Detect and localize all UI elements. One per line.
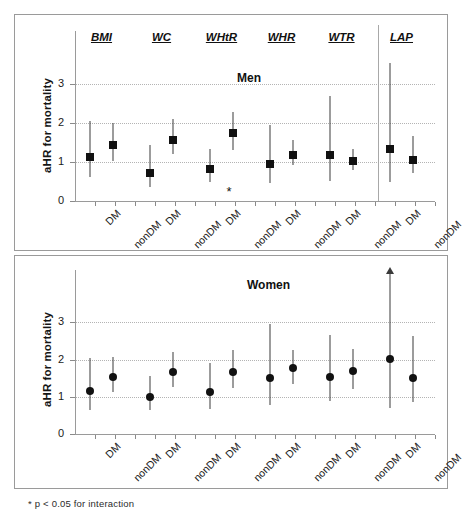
confidence-interval-whisker [90,358,91,410]
x-category-label: DM [103,207,123,227]
x-category-label: DM [343,207,363,227]
x-tick-mark [315,435,316,439]
significance-asterisk: * [226,185,231,198]
x-category-label: DM [163,207,183,227]
data-point-marker [386,355,394,363]
y-axis-line [75,270,76,434]
x-tick-mark [255,435,256,439]
group-header-whtr: WHtR [206,31,237,43]
x-tick-mark [295,435,296,439]
x-category-label: DM [103,440,123,460]
x-category-label: nonDM [131,451,163,483]
group-header-whr: WHR [268,31,295,43]
y-tick-label: 0 [42,195,64,206]
data-point-marker [266,374,274,382]
y-tick-label: 1 [42,156,64,167]
x-tick-mark [355,435,356,439]
data-point-marker [409,156,417,164]
panel-women: aHR for mortality0123WomenDMnonDMDMnonDM… [14,255,448,489]
x-tick-mark [175,435,176,439]
x-category-label: DM [403,440,423,460]
y-tick-label: 1 [42,391,64,402]
data-point-marker [169,368,177,376]
x-tick-mark [135,435,136,439]
data-point-marker [229,129,237,137]
y-tick-label: 2 [42,354,64,365]
gridline [75,322,435,323]
confidence-interval-whisker [270,324,271,404]
x-tick-mark [295,202,296,206]
x-category-label: DM [223,440,243,460]
gridline [75,360,435,361]
x-category-label: nonDM [431,218,462,250]
confidence-interval-whisker [150,145,151,188]
group-header-bmi: BMI [91,31,112,43]
x-tick-mark [435,435,436,439]
x-category-label: nonDM [311,218,343,250]
gridline [75,123,435,124]
x-category-label: DM [163,440,183,460]
x-category-label: nonDM [431,451,462,483]
data-point-marker [386,145,394,153]
y-tick-label: 3 [42,316,64,327]
forest-plot-figure: aHR for mortality0123MenBMIWCWHtRWHRWTRL… [0,0,462,510]
x-category-label: nonDM [191,218,223,250]
confidence-interval-whisker [390,63,391,182]
x-tick-mark [195,202,196,206]
x-category-label: nonDM [371,218,403,250]
confidence-interval-whisker [413,336,414,402]
x-tick-mark [395,435,396,439]
data-point-marker [109,373,117,381]
x-tick-mark [275,435,276,439]
confidence-interval-whisker [270,125,271,183]
x-category-label: nonDM [371,451,403,483]
x-category-label: nonDM [251,451,283,483]
data-point-marker [349,367,357,375]
y-tick-label: 3 [42,78,64,89]
panel-title: Women [247,278,290,292]
x-tick-mark [155,435,156,439]
x-category-label: DM [223,207,243,227]
x-tick-mark [315,202,316,206]
x-tick-mark [115,202,116,206]
x-tick-mark [235,202,236,206]
data-point-marker [206,165,214,173]
confidence-interval-whisker [330,335,331,401]
confidence-interval-whisker [90,121,91,178]
data-point-marker [86,153,94,161]
x-tick-mark [195,435,196,439]
data-point-marker [169,136,177,144]
x-tick-mark [335,202,336,206]
group-header-wtr: WTR [328,31,354,43]
x-category-label: nonDM [131,218,163,250]
x-tick-mark [415,435,416,439]
group-header-lap: LAP [390,31,413,43]
data-point-marker [266,160,274,168]
gridline [75,162,435,163]
x-tick-mark [95,435,96,439]
confidence-interval-whisker [210,363,211,408]
data-point-marker [109,141,117,149]
x-tick-mark [435,202,436,206]
data-point-marker [289,151,297,159]
x-tick-mark [335,435,336,439]
ci-truncated-arrow-icon [386,267,394,274]
data-point-marker [206,388,214,396]
x-category-label: DM [343,440,363,460]
data-point-marker [326,151,334,159]
x-tick-mark [235,435,236,439]
x-tick-mark [115,435,116,439]
x-tick-mark [215,202,216,206]
x-tick-mark [275,202,276,206]
gridline [75,397,435,398]
x-category-label: nonDM [311,451,343,483]
x-category-label: DM [403,207,423,227]
x-tick-mark [415,202,416,206]
group-separator [378,25,379,201]
x-category-label: nonDM [191,451,223,483]
data-point-marker [289,364,297,372]
data-point-marker [349,157,357,165]
confidence-interval-whisker [413,136,414,173]
data-point-marker [146,393,154,401]
y-tick-label: 2 [42,117,64,128]
